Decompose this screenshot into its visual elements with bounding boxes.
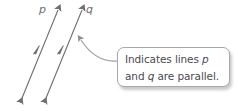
callout-line2-prefix: and (125, 70, 148, 82)
line-p-stroke (20, 10, 58, 103)
line-q-stroke (44, 10, 82, 103)
callout-line1-prefix: Indicates lines (125, 53, 202, 65)
callout-text-line-2: and q are parallel. (125, 68, 223, 85)
callout-leader-line (81, 40, 117, 61)
leader-curve (81, 40, 117, 61)
callout-box: Indicates lines p and q are parallel. (117, 47, 230, 87)
callout-line2-suffix: are parallel. (154, 70, 219, 82)
line-label-q: q (86, 4, 93, 15)
callout-line1-variable: p (202, 53, 209, 65)
line-p (20, 10, 58, 103)
line-label-p: p (39, 4, 46, 15)
line-q (44, 10, 82, 103)
parallel-lines-figure: p q Indicates lines p and q are parallel… (0, 0, 238, 111)
callout-text-line-1: Indicates lines p (125, 51, 223, 68)
